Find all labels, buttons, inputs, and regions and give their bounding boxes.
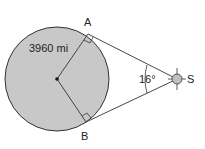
label-radius: 3960 mi <box>29 42 68 54</box>
label-point-b: B <box>81 130 88 142</box>
label-point-s: S <box>187 73 194 85</box>
label-point-a: A <box>84 16 92 28</box>
geometry-diagram: A B S 3960 mi 16° <box>0 0 205 149</box>
label-angle: 16° <box>139 73 156 85</box>
center-point <box>55 77 59 81</box>
sun-icon <box>168 68 186 90</box>
